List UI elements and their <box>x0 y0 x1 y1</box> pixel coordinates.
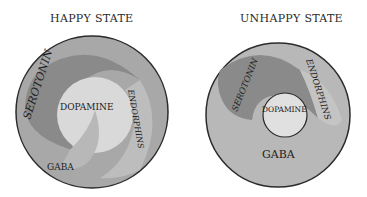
dopamine-label: DOPAMINE <box>262 105 307 114</box>
diagram-canvas: SEROTONIN DOPAMINE ENDORPHINS GABA SEROT… <box>0 0 367 197</box>
happy-state-diagram: SEROTONIN DOPAMINE ENDORPHINS GABA <box>16 36 168 188</box>
dopamine-region <box>263 93 307 137</box>
gaba-label: GABA <box>262 148 296 161</box>
dopamine-label: DOPAMINE <box>60 102 114 112</box>
gaba-label: GABA <box>47 162 74 172</box>
unhappy-state-diagram: SEROTONIN DOPAMINE ENDORPHINS GABA <box>206 43 350 187</box>
